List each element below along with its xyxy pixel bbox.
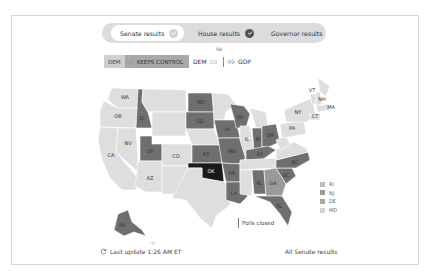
refresh-icon[interactable] xyxy=(100,248,107,255)
state-ne[interactable] xyxy=(186,129,220,145)
state-label-sc: SC xyxy=(283,172,290,178)
state-label-la: LA xyxy=(231,190,238,196)
us-map: WAORCANVIDUTAZCONDSDKSOKIAMOARLAWIILINOH… xyxy=(0,0,428,278)
state-label-co: CO xyxy=(172,153,179,159)
state-label-ak: AK xyxy=(119,222,126,228)
state-label-nh: NH xyxy=(318,96,326,102)
all-senate-results-link[interactable]: All Senate results xyxy=(285,248,337,255)
state-label-ok: OK xyxy=(207,168,215,174)
small-state-de[interactable]: DE xyxy=(320,197,337,206)
small-states-legend: RI NJ DE MD xyxy=(320,180,337,214)
swatch xyxy=(320,208,325,213)
state-label-or: OR xyxy=(114,113,122,119)
state-label-ga: GA xyxy=(269,180,277,186)
state-ms[interactable] xyxy=(240,170,252,196)
state-label-id: ID xyxy=(139,115,144,121)
state-label-nc: NC xyxy=(291,159,299,165)
state-label-ma: MA xyxy=(327,104,335,110)
state-label-ny: NY xyxy=(295,109,303,115)
state-label-mo: MO xyxy=(228,148,236,154)
state-label-oh: OH xyxy=(266,132,274,138)
state-mi[interactable] xyxy=(250,108,268,128)
state-wy[interactable] xyxy=(152,112,186,136)
state-mt[interactable] xyxy=(142,89,186,112)
state-label-az: AZ xyxy=(147,175,154,181)
state-label-ia: IA xyxy=(225,126,230,132)
state-label-il: IL xyxy=(245,136,249,142)
state-label-in: IN xyxy=(255,136,260,142)
state-label-wa: WA xyxy=(121,94,130,100)
last-update-text: Last update 1:26 AM ET xyxy=(110,248,181,255)
state-label-ks: KS xyxy=(203,151,209,157)
last-update: Last update 1:26 AM ET xyxy=(100,248,181,255)
state-hi[interactable] xyxy=(150,241,156,245)
state-label-ct: CT xyxy=(312,113,319,119)
small-state-nj[interactable]: NJ xyxy=(320,189,337,198)
swatch xyxy=(320,199,325,204)
state-label-nd: ND xyxy=(197,99,205,105)
state-label-wi: WI xyxy=(237,114,243,120)
state-label-ky: KY xyxy=(257,151,264,157)
small-state-ri[interactable]: RI xyxy=(320,180,337,189)
swatch xyxy=(320,190,325,195)
state-label-ut: UT xyxy=(147,148,155,154)
state-label-vt: VT xyxy=(309,87,316,93)
state-label-al: AL xyxy=(256,180,262,186)
state-label-fl: FL xyxy=(276,203,282,209)
polls-closed-text: Polls closed xyxy=(242,220,274,226)
polls-closed-legend: Polls closed xyxy=(238,218,274,228)
small-state-md[interactable]: MD xyxy=(320,206,337,215)
state-label-sd: SD xyxy=(196,118,203,124)
polls-closed-marker xyxy=(238,218,239,228)
state-label-pa: PA xyxy=(289,125,296,131)
state-label-ar: AR xyxy=(229,170,236,176)
state-label-ca: CA xyxy=(108,152,115,158)
swatch xyxy=(320,182,325,187)
state-label-nv: NV xyxy=(124,140,132,146)
